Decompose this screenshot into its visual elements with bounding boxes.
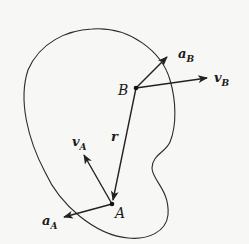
label-aB: aB xyxy=(178,46,194,64)
aA-vector xyxy=(64,204,112,217)
label-B: B xyxy=(117,82,128,98)
point-B xyxy=(134,86,139,91)
label-vA: vA xyxy=(72,134,87,152)
label-A: A xyxy=(113,205,125,221)
vA-vector xyxy=(84,155,112,204)
label-aA: aA xyxy=(42,213,57,231)
point-A xyxy=(110,202,115,207)
label-r: r xyxy=(111,129,119,144)
diagram-svg: B A r vA aA vB aB xyxy=(0,0,249,244)
label-vB: vB xyxy=(214,70,230,88)
r-vector xyxy=(113,88,136,200)
rigid-body-diagram: B A r vA aA vB aB xyxy=(0,0,249,244)
aB-vector xyxy=(136,57,167,88)
